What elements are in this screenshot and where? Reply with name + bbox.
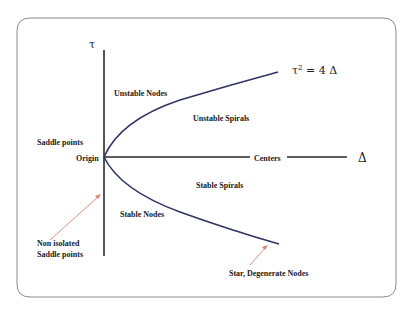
- parabola-lower: [104, 157, 279, 244]
- label-unstable-spirals: Unstable Spirals: [193, 114, 249, 123]
- curve-equation: τ2 = 4 Δ: [292, 64, 337, 77]
- label-non-isolated-2: Saddle points: [37, 250, 83, 259]
- label-origin: Origin: [76, 154, 99, 163]
- arrow-non-isolated: [50, 194, 101, 240]
- parabola-upper: [104, 72, 278, 157]
- delta-axis-label: Δ: [358, 151, 367, 165]
- label-unstable-nodes: Unstable Nodes: [114, 89, 167, 98]
- stability-diagram: τ Δ τ2 = 4 Δ Unstable Nodes Unstable Spi…: [0, 0, 411, 314]
- arrow-star-degenerate: [250, 245, 268, 265]
- label-centers: Centers: [254, 154, 281, 163]
- label-star-degenerate: Star, Degenerate Nodes: [229, 269, 308, 278]
- tau-axis-label: τ: [89, 38, 95, 51]
- label-stable-spirals: Stable Spirals: [196, 181, 243, 190]
- label-stable-nodes: Stable Nodes: [120, 210, 164, 219]
- label-saddle-points: Saddle points: [37, 138, 83, 147]
- label-non-isolated-1: Non isolated: [37, 239, 80, 248]
